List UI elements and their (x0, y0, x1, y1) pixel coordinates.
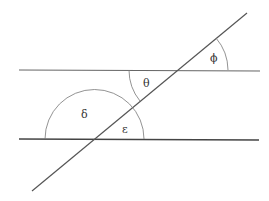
angle-label-delta: δ (81, 108, 88, 121)
upper-parallel-line (19, 70, 260, 71)
phi-arc (216, 38, 228, 70)
angle-label-epsilon: ε (122, 123, 128, 136)
delta-epsilon-arc (45, 90, 144, 139)
transversal-line (32, 13, 247, 191)
theta-arc (129, 70, 140, 101)
angle-label-phi: ϕ (210, 52, 218, 65)
angle-label-theta: θ (143, 77, 150, 90)
lower-parallel-line (19, 139, 259, 140)
diagram-canvas: ϕ θ δ ε (0, 0, 269, 201)
